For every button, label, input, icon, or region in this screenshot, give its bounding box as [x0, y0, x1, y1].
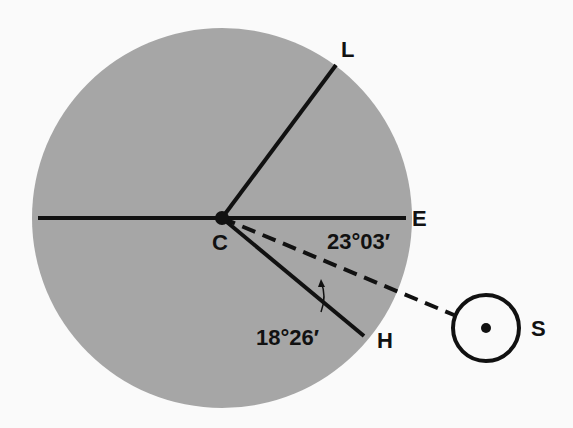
sun-center-dot — [481, 323, 491, 333]
angle-label-23-03: 23°03′ — [327, 229, 390, 254]
label-E: E — [412, 206, 427, 231]
angle-label-18-26: 18°26′ — [256, 325, 319, 350]
center-point — [215, 211, 229, 225]
label-S: S — [531, 316, 546, 341]
label-H: H — [377, 328, 393, 353]
label-C: C — [212, 230, 228, 255]
label-L: L — [341, 37, 354, 62]
diagram-canvas: L E C H S 23°03′ 18°26′ — [0, 0, 573, 428]
